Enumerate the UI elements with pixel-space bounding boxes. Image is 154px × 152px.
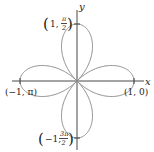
label-top-point: ( 1, π 2 )	[43, 15, 73, 33]
paren-close: )	[67, 15, 73, 33]
label-top-prefix: 1,	[50, 19, 59, 29]
label-top-denominator: 2	[61, 24, 66, 32]
label-right-point: (1, 0)	[124, 87, 148, 97]
label-left-point: (−1, π)	[5, 87, 37, 97]
paren-open: (	[43, 15, 49, 33]
label-bottom-prefix: −1,	[45, 134, 61, 144]
label-bottom-point: ( −1, 3π 2 )	[38, 130, 74, 148]
paren-open: (	[38, 130, 44, 148]
label-bottom-denominator: 2	[61, 139, 66, 147]
rose-curve-diagram: x y (1, 0) (−1, π) ( 1, π 2 ) ( −1, 3π 2…	[0, 0, 154, 152]
y-axis-label: y	[78, 1, 85, 12]
x-axis-label: x	[145, 76, 151, 87]
paren-close: )	[68, 130, 74, 148]
